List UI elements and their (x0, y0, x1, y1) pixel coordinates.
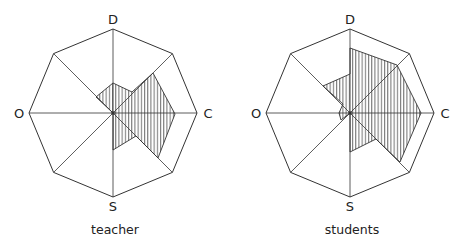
teacher-shaded-area (96, 73, 175, 158)
students-label-s: S (346, 199, 354, 214)
students-shaded-area (323, 48, 421, 162)
teacher-radar-diagram (29, 29, 197, 197)
students-label-c: C (440, 106, 449, 121)
teacher-label-c: C (203, 106, 212, 121)
students-radar-diagram (266, 29, 434, 197)
teacher-caption: teacher (91, 222, 140, 237)
teacher-label-s: S (109, 199, 117, 214)
students-label-d: D (345, 12, 355, 27)
teacher-center-dot (111, 111, 115, 115)
diagram-canvas: D C S O teacher D C S O students (0, 0, 463, 251)
students-caption: students (325, 222, 379, 237)
teacher-label-d: D (108, 12, 118, 27)
students-label-o: O (251, 106, 261, 121)
teacher-label-o: O (14, 106, 24, 121)
students-center-dot (348, 111, 352, 115)
